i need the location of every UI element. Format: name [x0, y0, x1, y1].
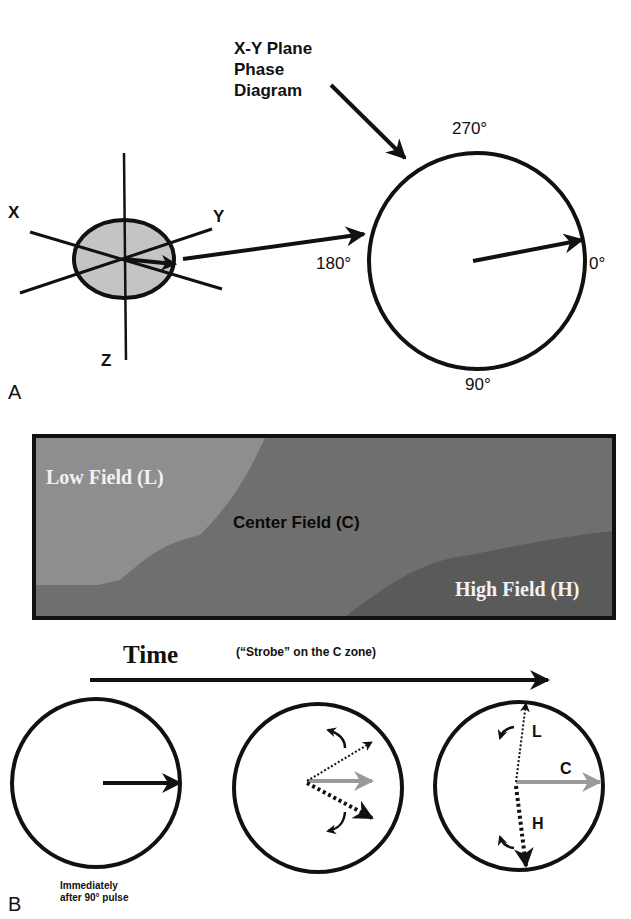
caption-line-1: Immediately	[60, 880, 128, 892]
vector-label-l: L	[532, 723, 542, 741]
angle-180-label: 180°	[316, 254, 351, 274]
caption-line-2: after 90° pulse	[60, 892, 128, 904]
callout-label: X-Y Plane Phase Diagram	[234, 38, 312, 101]
callout-line-2: Phase	[234, 59, 312, 80]
callout-line-3: Diagram	[234, 80, 312, 101]
vector-label-c: C	[560, 760, 572, 778]
low-field-label: Low Field (L)	[46, 466, 164, 489]
phase-circle-t2	[435, 702, 603, 870]
callout-arrow	[331, 85, 405, 158]
callout-line-1: X-Y Plane	[234, 38, 312, 59]
y-axis-label: Y	[213, 207, 224, 227]
angle-0-label: 0°	[589, 254, 605, 274]
angle-90-label: 90°	[465, 375, 491, 395]
z-axis-label: Z	[101, 351, 111, 371]
vector-label-h: H	[532, 815, 544, 833]
center-field-label: Center Field (C)	[233, 513, 360, 533]
angle-270-label: 270°	[452, 119, 487, 139]
diagram-canvas	[0, 0, 631, 919]
panel-a-letter: A	[8, 381, 21, 404]
panel-b-letter: B	[8, 893, 21, 916]
caption-t0: Immediately after 90° pulse	[60, 880, 128, 904]
time-label: Time	[123, 641, 178, 669]
high-field-label: High Field (H)	[455, 578, 579, 601]
x-axis-label: X	[8, 203, 19, 223]
strobe-note: (“Strobe” on the C zone)	[236, 645, 376, 659]
